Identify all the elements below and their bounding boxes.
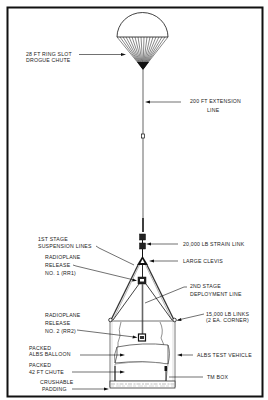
svg-text:20,000 LB STRAIN LINK: 20,000 LB STRAIN LINK bbox=[183, 241, 245, 247]
drogue-chute-icon bbox=[117, 13, 168, 70]
label-strain-link: 20,000 LB STRAIN LINK bbox=[146, 241, 245, 247]
svg-text:RADIOPLANE: RADIOPLANE bbox=[45, 254, 81, 260]
label-radioplane-release-1: RADIOPLANE RELEASE NO. 1 (RR1) bbox=[45, 254, 137, 282]
svg-text:PACKED: PACKED bbox=[29, 362, 51, 368]
label-second-stage-deployment-line: 2ND STAGE DEPLOYMENT LINE bbox=[145, 283, 242, 303]
crushable-padding bbox=[110, 381, 175, 388]
svg-text:(2 EA. CORNER): (2 EA. CORNER) bbox=[206, 317, 249, 323]
svg-text:1ST STAGE: 1ST STAGE bbox=[38, 236, 68, 242]
svg-text:RADIOPLANE: RADIOPLANE bbox=[45, 312, 81, 318]
svg-text:NO. 2 (RR2): NO. 2 (RR2) bbox=[45, 328, 76, 334]
drop-test-rig-diagram: 28 FT RING SLOT DROGUE CHUTE 200 FT EXTE… bbox=[0, 0, 268, 400]
label-radioplane-release-2: RADIOPLANE RELEASE NO. 2 (RR2) bbox=[45, 312, 138, 339]
svg-text:LINE: LINE bbox=[207, 107, 220, 113]
strain-link-upper-icon bbox=[140, 234, 146, 240]
label-crushable-padding: CRUSHABLE PADDING bbox=[40, 379, 109, 392]
svg-text:DEPLOYMENT LINE: DEPLOYMENT LINE bbox=[190, 291, 242, 297]
svg-text:LARGE CLEVIS: LARGE CLEVIS bbox=[183, 258, 223, 264]
label-extension-line: 200 FT EXTENSION LINE bbox=[145, 98, 241, 113]
svg-text:SUSPENSION LINES: SUSPENSION LINES bbox=[38, 243, 92, 249]
label-large-clevis: LARGE CLEVIS bbox=[149, 258, 223, 264]
diagram-frame bbox=[8, 8, 263, 397]
strain-link-lower-icon bbox=[140, 243, 146, 249]
label-drogue-chute: 28 FT RING SLOT DROGUE CHUTE bbox=[26, 51, 126, 63]
packed-albs-balloon bbox=[115, 344, 168, 364]
svg-text:200 FT EXTENSION: 200 FT EXTENSION bbox=[190, 98, 241, 104]
label-packed-albs-balloon: PACKED ALBS BALLOON bbox=[29, 345, 125, 357]
label-tm-box: TM BOX bbox=[169, 374, 228, 380]
label-corner-links: 15,000 LB LINKS (2 EA. CORNER) bbox=[177, 311, 250, 323]
tm-box-icon bbox=[165, 366, 168, 371]
svg-text:TM BOX: TM BOX bbox=[207, 374, 228, 380]
svg-text:DROGUE CHUTE: DROGUE CHUTE bbox=[26, 57, 71, 63]
label-first-stage-suspension-lines: 1ST STAGE SUSPENSION LINES bbox=[38, 236, 134, 265]
svg-text:ALBS TEST VEHICLE: ALBS TEST VEHICLE bbox=[197, 352, 252, 358]
svg-text:CRUSHABLE: CRUSHABLE bbox=[40, 379, 74, 385]
svg-text:RELEASE: RELEASE bbox=[45, 262, 71, 268]
label-albs-test-vehicle: ALBS TEST VEHICLE bbox=[177, 352, 252, 358]
swivel-connector-icon bbox=[142, 134, 145, 138]
label-packed-42ft-chute: PACKED 42 FT CHUTE bbox=[29, 362, 125, 375]
svg-text:PADDING: PADDING bbox=[42, 386, 67, 392]
svg-text:2ND STAGE: 2ND STAGE bbox=[190, 283, 221, 289]
svg-text:NO. 1 (RR1): NO. 1 (RR1) bbox=[45, 270, 76, 276]
svg-text:RELEASE: RELEASE bbox=[45, 320, 71, 326]
svg-text:ALBS BALLOON: ALBS BALLOON bbox=[29, 351, 71, 357]
svg-text:42 FT CHUTE: 42 FT CHUTE bbox=[29, 369, 64, 375]
